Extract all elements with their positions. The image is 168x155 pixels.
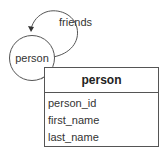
- attribute-first-name: first_name: [45, 112, 158, 129]
- circle-node-label: person: [15, 52, 49, 64]
- person-entity-table[interactable]: person person_id first_name last_name: [44, 67, 159, 147]
- arrowhead-icon: [28, 26, 34, 32]
- attribute-person-id: person_id: [45, 95, 158, 112]
- edge-label-friends: friends: [59, 16, 92, 28]
- attribute-last-name: last_name: [45, 129, 158, 146]
- entity-title: person: [45, 68, 158, 93]
- entity-attributes: person_id first_name last_name: [45, 93, 158, 146]
